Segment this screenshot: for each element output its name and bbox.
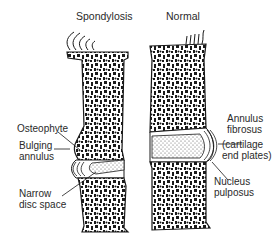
label-osteophyte: Osteophyte [17,123,68,134]
label-nucleus-line1: Nucleus [214,176,254,187]
spondylosis-vertebrae [67,32,128,232]
label-cartilage-line1: (cartilage [222,139,271,150]
label-bulging-line2: annulus [19,151,54,162]
spondylosis-title: Spondylosis [76,11,133,22]
label-annulus-line1: Annulus [227,113,263,124]
normal-vertebrae [150,30,217,230]
label-narrow-disc-space: Narrow disc space [19,188,66,210]
label-annulus-line2: fibrosus [227,124,263,135]
label-narrow-line1: Narrow [19,188,66,199]
label-nucleus-line2: pulposus [214,187,254,198]
label-bulging-annulus: Bulging annulus [19,140,54,162]
label-nucleus-pulposus: Nucleus pulposus [214,176,254,198]
label-cartilage-end-plates: (cartilage end plates) [222,139,271,161]
label-narrow-line2: disc space [19,199,66,210]
label-annulus-fibrosus: Annulus fibrosus [227,113,263,135]
normal-title: Normal [166,11,200,22]
label-bulging-line1: Bulging [19,140,54,151]
label-cartilage-line2: end plates) [222,150,271,161]
